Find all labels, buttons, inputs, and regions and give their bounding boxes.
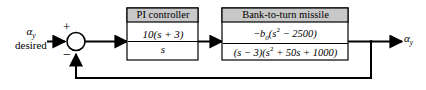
input-desired-label: desired: [8, 40, 54, 52]
pi-controller-transfer-function: 10(s + 3) s: [128, 28, 198, 55]
missile-numerator: −b0(s2 − 2500): [223, 26, 348, 43]
sum-plus-sign: +: [63, 20, 70, 34]
block-diagram: αy desired + − PI controller 10(s + 3) s…: [0, 0, 426, 90]
pi-denominator: s: [128, 41, 198, 55]
input-signal-label: αy desired: [8, 26, 54, 52]
pi-controller-title: PI controller: [128, 9, 198, 20]
missile-title: Bank-to-turn missile: [223, 9, 348, 20]
diagram-wires-layer: [0, 0, 426, 90]
missile-denominator: (s − 3)(s2 + 50s + 1000): [223, 43, 348, 58]
pi-numerator: 10(s + 3): [128, 28, 198, 41]
sum-minus-sign: −: [63, 48, 71, 63]
input-symbol: αy: [8, 26, 54, 40]
missile-transfer-function: −b0(s2 − 2500) (s − 3)(s2 + 50s + 1000): [223, 26, 348, 57]
output-subscript: y: [410, 38, 413, 47]
output-signal-label: αy: [404, 33, 413, 47]
